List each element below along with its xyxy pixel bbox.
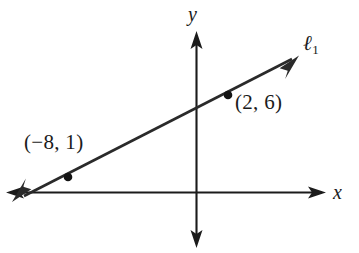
y-axis-label: y xyxy=(188,4,197,24)
point-marker-2-6 xyxy=(224,91,233,100)
line-l1-left-arrowhead xyxy=(5,179,32,202)
line-graph-figure: x y (−8, 1) (2, 6) ℓ1 xyxy=(0,0,359,253)
line-l1-right-arrowhead xyxy=(279,56,306,79)
point-label-minus8-1: (−8, 1) xyxy=(24,132,83,153)
line-label-ell-glyph: ℓ xyxy=(303,31,312,55)
x-axis-label: x xyxy=(333,182,342,202)
line-label-l1: ℓ1 xyxy=(303,33,319,56)
point-label-2-6: (2, 6) xyxy=(235,92,282,113)
point-marker-minus8-1 xyxy=(64,173,73,182)
line-label-subscript: 1 xyxy=(312,42,319,57)
